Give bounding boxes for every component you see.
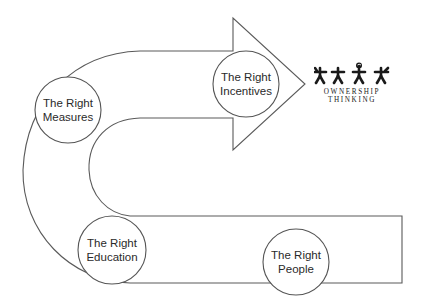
stick-figure-4-icon <box>375 68 388 83</box>
label-incentives: The Right Incentives <box>211 70 281 98</box>
label-people-line2: People <box>261 262 331 276</box>
u-turn-arrow-diagram <box>0 0 422 302</box>
label-education: The Right Education <box>77 236 147 264</box>
stick-figure-3-icon <box>353 69 365 83</box>
label-measures-line2: Measures <box>33 110 103 124</box>
label-incentives-line1: The Right <box>211 70 281 84</box>
label-incentives-line2: Incentives <box>211 84 281 98</box>
label-education-line1: The Right <box>77 236 147 250</box>
stick-figures-icon <box>314 62 390 86</box>
stick-figure-1-icon <box>315 68 326 83</box>
label-people: The Right People <box>261 248 331 276</box>
label-people-line1: The Right <box>261 248 331 262</box>
stick-figure-2-icon <box>332 68 344 83</box>
label-education-line2: Education <box>77 250 147 264</box>
logo-text-line1: OWNERSHIP <box>314 88 390 96</box>
logo-text-line2: THINKING <box>314 96 390 104</box>
ownership-thinking-logo: OWNERSHIP THINKING <box>314 62 390 104</box>
label-measures-line1: The Right <box>33 96 103 110</box>
label-measures: The Right Measures <box>33 96 103 124</box>
